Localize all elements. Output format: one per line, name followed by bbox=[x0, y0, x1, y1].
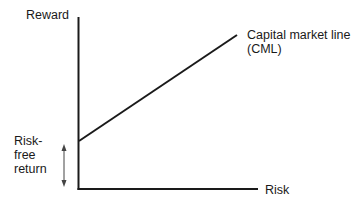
cml-label-line2: (CML) bbox=[247, 42, 282, 56]
x-axis-label: Risk bbox=[265, 183, 289, 197]
y-axis-label: Reward bbox=[26, 8, 69, 22]
risk-free-label-line2: free bbox=[14, 148, 36, 162]
risk-free-label-line3: return bbox=[14, 162, 47, 176]
cml-label-line1: Capital market line bbox=[247, 28, 351, 42]
risk-free-label-line1: Risk- bbox=[14, 134, 42, 148]
risk-free-double-arrow-icon bbox=[62, 144, 67, 187]
capital-market-line bbox=[79, 35, 237, 141]
